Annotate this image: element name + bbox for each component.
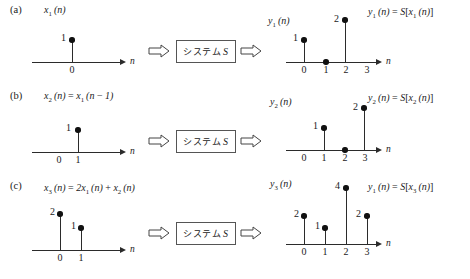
system-box-label: システム <box>183 227 221 240</box>
x-axis-label: n <box>386 144 391 154</box>
stem-value-n3: 2 <box>342 101 358 112</box>
figure-row-a: (a) x1 (n) n 1 0 システムS y1 (n) n <box>0 0 470 93</box>
figure-row-c: (c) x3 (n) = 2x1 (n) + x2 (n) n 2 1 0 1 … <box>0 178 470 279</box>
row-header-b: x2 (n) = x1 (n − 1) <box>44 90 113 103</box>
x-axis-arrow-icon <box>120 149 126 155</box>
stem-dot-n2 <box>343 185 348 190</box>
system-box-label: システム <box>183 45 221 58</box>
x-tick-3: 3 <box>362 64 372 75</box>
x-axis <box>32 152 120 153</box>
stem-dot-n0 <box>301 37 306 42</box>
x-axis <box>32 62 120 63</box>
row-header-a: x1 (n) <box>44 4 66 17</box>
implies-arrow-icon <box>240 134 262 148</box>
system-box-label: システム <box>183 135 221 148</box>
x-tick-3: 3 <box>362 246 372 257</box>
x-axis <box>286 62 376 63</box>
x-tick-0: 0 <box>299 152 309 163</box>
stem-dot-n1 <box>78 225 83 230</box>
stem-dot-n2 <box>342 17 347 22</box>
stem-value-n0: 1 <box>282 32 298 43</box>
system-box-symbol: S <box>223 136 228 147</box>
x-axis-label: n <box>130 56 135 66</box>
x-tick-0: 0 <box>54 154 64 165</box>
x-axis <box>286 244 376 245</box>
x-axis-arrow-icon <box>120 59 126 65</box>
plot-b-output: y2 (n) n 1 2 0 1 2 3 <box>268 96 398 164</box>
x-tick-0: 0 <box>55 252 65 263</box>
x-tick-3: 3 <box>360 152 370 163</box>
x-tick-1: 1 <box>320 246 330 257</box>
plot-b-input: n 1 0 1 <box>30 108 150 166</box>
row-equation-a: y1 (n) = S[x1 (n)] <box>368 6 433 19</box>
stem-n1 <box>324 128 325 150</box>
stem-value-n0: 2 <box>39 206 55 217</box>
stem-dot-n0 <box>57 211 62 216</box>
x-tick-1: 1 <box>319 152 329 163</box>
stem-n2 <box>345 20 346 62</box>
plot-c-input: n 2 1 0 1 <box>30 198 150 262</box>
x-axis <box>286 150 376 151</box>
system-box-symbol: S <box>223 46 228 57</box>
stem-value-n2: 2 <box>323 13 339 24</box>
stem-n0 <box>72 40 73 62</box>
stem-n0 <box>304 40 305 62</box>
x-axis-label: n <box>386 56 391 66</box>
stem-value-n0: 2 <box>283 208 299 219</box>
stem-dot-n0 <box>69 37 74 42</box>
stem-dot-n3 <box>364 213 369 218</box>
row-tag-b: (b) <box>10 90 22 101</box>
stem-n3 <box>367 216 368 244</box>
x-tick-2: 2 <box>340 152 350 163</box>
row-equation-b: y2 (n) = S[x2 (n)] <box>368 92 433 105</box>
stem-value-n0: 1 <box>48 32 66 43</box>
system-box-b: システムS <box>176 130 236 153</box>
stem-value-n1: 1 <box>55 122 71 133</box>
row-tag-a: (a) <box>10 4 22 15</box>
system-box-a: システムS <box>176 40 236 63</box>
stem-dot-n3 <box>361 105 366 110</box>
x-axis-arrow-icon <box>376 59 382 65</box>
row-header-c: x3 (n) = 2x1 (n) + x2 (n) <box>44 182 135 195</box>
row-equation-c: y1 (n) = S[x3 (n)] <box>368 181 433 194</box>
signal-name-y2: y2 (n) <box>270 96 292 109</box>
implies-arrow-icon <box>240 226 262 240</box>
plot-a-output: y1 (n) n 1 2 0 1 2 3 <box>268 12 398 76</box>
stem-value-n3: 2 <box>345 208 361 219</box>
x-tick-2: 2 <box>341 64 351 75</box>
stem-value-n1: 1 <box>302 120 318 131</box>
implies-arrow-icon <box>148 226 170 240</box>
x-tick-1: 1 <box>73 154 83 165</box>
stem-dot-n1 <box>322 225 327 230</box>
x-tick-1: 1 <box>76 252 86 263</box>
figure-row-b: (b) x2 (n) = x1 (n − 1) n 1 0 1 システムS y2… <box>0 88 470 180</box>
implies-arrow-icon <box>240 44 262 58</box>
figure-system-linearity: (a) x1 (n) n 1 0 システムS y1 (n) n <box>0 0 470 279</box>
x-axis-arrow-icon <box>376 147 382 153</box>
stem-n3 <box>364 108 365 150</box>
implies-arrow-icon <box>148 44 170 58</box>
x-axis-label: n <box>130 146 135 156</box>
x-axis-arrow-icon <box>120 247 126 253</box>
signal-name-y3: y3 (n) <box>270 178 292 191</box>
x-tick-0: 0 <box>299 246 309 257</box>
x-tick-0: 0 <box>67 64 77 75</box>
stem-value-n1: 1 <box>304 220 320 231</box>
x-tick-0: 0 <box>299 64 309 75</box>
x-axis-label: n <box>130 244 135 254</box>
x-tick-1: 1 <box>321 64 331 75</box>
stem-dot-n1 <box>75 127 80 132</box>
stem-value-n1: 1 <box>60 220 76 231</box>
signal-name-y1: y1 (n) <box>268 15 290 28</box>
stem-value-n2: 4 <box>324 180 340 191</box>
stem-dot-n0 <box>301 213 306 218</box>
x-axis <box>32 250 120 251</box>
stem-n1 <box>78 130 79 152</box>
stem-dot-n1 <box>321 125 326 130</box>
x-axis-label: n <box>386 238 391 248</box>
implies-arrow-icon <box>148 134 170 148</box>
stem-n1 <box>81 228 82 250</box>
system-box-c: システムS <box>176 222 236 245</box>
system-box-symbol: S <box>223 228 228 239</box>
plot-a-input: n 1 0 <box>30 18 140 76</box>
